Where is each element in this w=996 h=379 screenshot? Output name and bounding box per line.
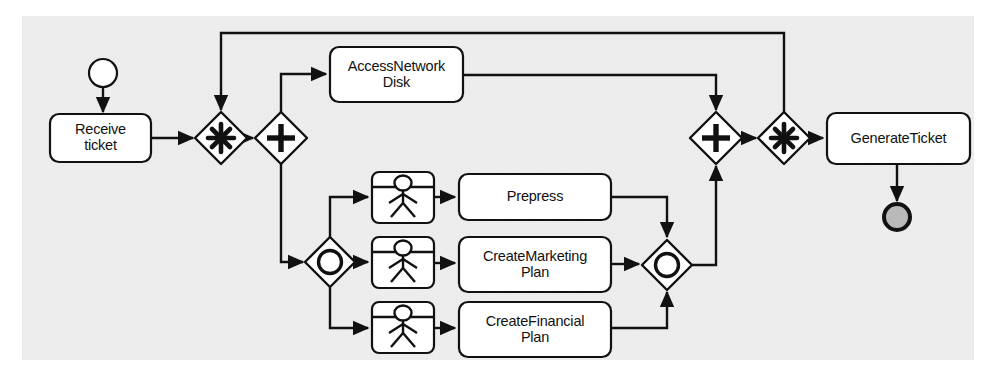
task-prepress[interactable] [459, 174, 611, 220]
start-event[interactable] [89, 59, 117, 87]
asterisk-icon [771, 124, 797, 152]
gateway-parallel-join[interactable] [690, 112, 742, 164]
flow-parallel-split-to-access [281, 74, 326, 112]
bpmn-nodes [50, 47, 970, 357]
flow-prepress-to-inclusive-join [611, 197, 667, 237]
task-generate-ticket[interactable] [827, 113, 970, 164]
task-receive-ticket[interactable] [50, 114, 151, 162]
task-create-financial-plan[interactable] [459, 302, 611, 357]
user-task-icon-financial[interactable] [372, 302, 434, 353]
gateway-inclusive-join[interactable] [642, 240, 692, 290]
gateway-complex-join[interactable] [758, 112, 810, 164]
user-task-icon-prepress[interactable] [372, 172, 434, 223]
flow-financial-to-inclusive-join [611, 292, 667, 328]
flow-parallel-split-to-inclusive-split [281, 164, 303, 262]
task-access-network-disk[interactable] [330, 47, 463, 102]
bpmn-diagram [0, 0, 996, 379]
task-create-marketing-plan[interactable] [459, 237, 611, 292]
flow-loopback-complex-join-to-complex-split [221, 33, 784, 112]
diagram-canvas: Receive ticket AccessNetwork Disk Prepre… [0, 0, 996, 379]
flow-inclusive-split-to-user-financial [330, 287, 368, 328]
gateway-parallel-split[interactable] [255, 112, 307, 164]
gateway-complex-split[interactable] [195, 112, 247, 164]
asterisk-icon [208, 124, 234, 152]
flow-access-to-parallel-join [463, 75, 716, 110]
gateway-inclusive-split[interactable] [305, 237, 355, 287]
flow-inclusive-join-to-parallel-join [692, 166, 716, 265]
user-task-icon-marketing[interactable] [372, 237, 434, 288]
end-event[interactable] [884, 204, 910, 230]
flow-inclusive-split-to-user-prepress [330, 197, 368, 237]
